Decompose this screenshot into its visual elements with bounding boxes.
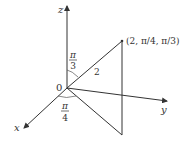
x-axis (24, 88, 67, 128)
phi-denominator: 3 (70, 61, 76, 71)
phi-numerator: π (69, 50, 77, 60)
y-axis-label: y (160, 104, 167, 115)
origin-label: 0 (56, 82, 62, 93)
spherical-coordinates-diagram: z y x 0 (2, π/4, π/3) 2 π 3 π 4 (0, 0, 190, 141)
radius-label: 2 (94, 67, 100, 77)
theta-numerator: π (61, 101, 69, 111)
z-axis-label: z (57, 4, 64, 15)
theta-denominator: 4 (62, 113, 68, 123)
phi-angle-arc (67, 70, 78, 77)
x-axis-label: x (14, 122, 20, 133)
point-label: (2, π/4, π/3) (126, 36, 180, 46)
point-marker (121, 40, 124, 43)
projection-xy-line (67, 88, 122, 135)
y-axis (67, 88, 167, 101)
theta-angle-arc (58, 96, 76, 98)
